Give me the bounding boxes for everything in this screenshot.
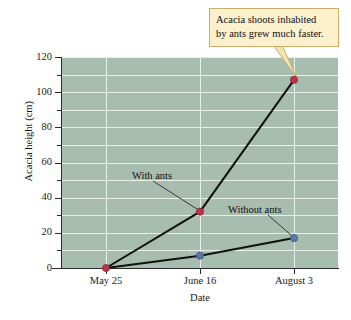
- y-tick-label-40: 40: [42, 192, 53, 203]
- y-tick-label-60: 60: [42, 157, 53, 168]
- y-tick-minor-50: [57, 180, 61, 181]
- y-tick-minor-70: [57, 145, 61, 146]
- x-tick-august-3: [294, 268, 295, 274]
- y-tick-label-100: 100: [36, 87, 52, 98]
- x-tick-may-25: [106, 268, 107, 274]
- x-axis-line: [52, 268, 339, 269]
- y-tick-80: [55, 127, 61, 128]
- y-tick-40: [55, 198, 61, 199]
- y-tick-label-80: 80: [42, 122, 53, 133]
- y-tick-minor-90: [57, 110, 61, 111]
- figure-container: 120 100 80 60 40 20 0 May 25 June 16 Aug…: [0, 0, 351, 320]
- series-label-with-ants: With ants: [132, 171, 172, 182]
- x-tick-june-16: [200, 268, 201, 274]
- x-axis-title: Date: [62, 293, 338, 304]
- y-tick-minor-30: [57, 215, 61, 216]
- gridline-x-may-25: [106, 57, 107, 268]
- x-tick-label-may-25: May 25: [90, 276, 122, 287]
- x-tick-label-august-3: August 3: [275, 276, 313, 287]
- y-tick-label-120: 120: [36, 52, 52, 63]
- y-tick-minor-110: [57, 75, 61, 76]
- y-tick-20: [55, 233, 61, 234]
- y-axis-line: [61, 57, 62, 269]
- callout-box: Acacia shoots inhabited by ants grew muc…: [209, 8, 339, 47]
- y-tick-100: [55, 92, 61, 93]
- callout-line-1: Acacia shoots inhabited: [216, 13, 332, 27]
- y-tick-0: [55, 268, 61, 269]
- series-label-without-ants: Without ants: [228, 205, 282, 216]
- y-tick-label-20: 20: [42, 227, 53, 238]
- x-tick-label-june-16: June 16: [184, 276, 216, 287]
- y-tick-120: [55, 57, 61, 58]
- plot-area: [62, 57, 338, 268]
- y-tick-60: [55, 163, 61, 164]
- y-axis-title: Acacia height (cm): [24, 71, 35, 211]
- callout-line-2: by ants grew much faster.: [216, 27, 332, 41]
- y-tick-minor-10: [57, 250, 61, 251]
- y-tick-label-0: 0: [47, 263, 52, 274]
- gridline-x-august-3: [294, 57, 295, 268]
- gridline-x-june-16: [200, 57, 201, 268]
